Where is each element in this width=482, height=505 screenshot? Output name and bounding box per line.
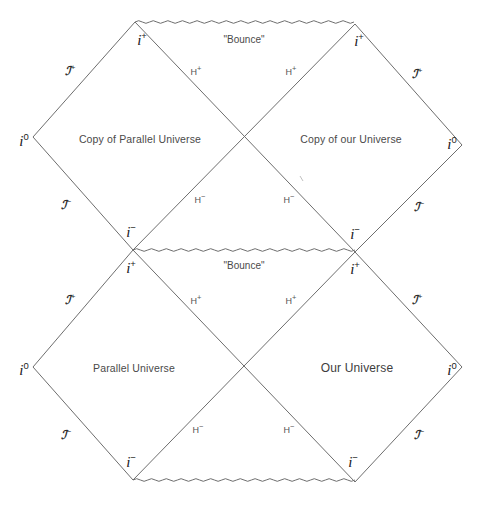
- scri-sign: −: [420, 199, 425, 208]
- corner-sign: −: [130, 452, 136, 463]
- corner-label-i-zero-upper-right: i0: [447, 136, 456, 153]
- corner-label-i-plus-mid-right: i+: [350, 261, 360, 278]
- wavy-line-bottom-singularity: [133, 479, 355, 482]
- scri-sign: +: [418, 292, 423, 301]
- region-label-copy-our-universe: Copy of our Universe: [300, 133, 402, 145]
- wavy-line-top-singularity: [135, 21, 354, 24]
- bounce-label-top: "Bounce": [223, 34, 264, 45]
- scri-sign: −: [67, 427, 72, 436]
- scri-label-plus-upper-left: ℐ+: [65, 64, 76, 79]
- scri-label-minus-upper-left: ℐ−: [61, 198, 72, 213]
- horizon-sign: −: [290, 192, 294, 201]
- horizon-sign: −: [290, 422, 294, 431]
- corner-sign: 0: [23, 131, 28, 142]
- horizon-sign: +: [292, 293, 296, 302]
- horizon-sign: −: [201, 192, 205, 201]
- horizon-sign: +: [292, 64, 296, 73]
- edge-scri-minus-lower-left: [33, 367, 133, 480]
- corner-label-i-zero-lower-left: i0: [19, 362, 28, 379]
- region-label-parallel-universe: Parallel Universe: [93, 362, 175, 374]
- scri-label-plus-upper-right: ℐ+: [412, 67, 423, 82]
- penrose-diagram: .edge { stroke: #6e6e6e; stroke-width: 1…: [0, 0, 482, 505]
- lower-left-diamond: [33, 250, 355, 482]
- region-label-copy-parallel-universe: Copy of Parallel Universe: [79, 133, 201, 145]
- bounce-label-middle: "Bounce": [223, 260, 264, 271]
- corner-label-i-plus-top-left: i+: [137, 32, 147, 49]
- corner-sign: −: [130, 222, 136, 233]
- corner-label-i-plus-top-right: i+: [354, 33, 364, 50]
- horizon-label-past-upper-right: H−: [284, 195, 295, 205]
- edge-scri-minus-upper-left: [33, 137, 133, 250]
- corner-label-i-zero-lower-right: i0: [447, 362, 456, 379]
- corner-label-i-plus-mid-left: i+: [126, 260, 136, 277]
- horizon-sign: +: [197, 64, 201, 73]
- corner-sign: −: [354, 224, 360, 235]
- corner-sign: 0: [23, 360, 28, 371]
- corner-sign: −: [352, 452, 358, 463]
- horizon-sign: +: [197, 293, 201, 302]
- corner-label-i-minus-mid-right: i−: [350, 226, 360, 243]
- scri-sign: −: [67, 197, 72, 206]
- scri-sign: +: [71, 63, 76, 72]
- horizon-label-past-lower-left: H−: [193, 425, 204, 435]
- corner-label-i-minus-bottom-left: i−: [126, 454, 136, 471]
- horizon-label-future-lower-left: H+: [191, 296, 202, 306]
- horizon-label-future-upper-right: H+: [286, 67, 297, 77]
- wavy-line-middle-singularity: [133, 249, 355, 252]
- region-label-our-universe: Our Universe: [321, 361, 394, 375]
- horizon-label-future-lower-right: H+: [286, 296, 297, 306]
- corner-sign: +: [358, 31, 364, 42]
- edge-scri-plus-upper-left: [33, 22, 135, 137]
- corner-sign: +: [354, 259, 360, 270]
- scri-sign: +: [71, 292, 76, 301]
- scri-sign: +: [418, 66, 423, 75]
- scri-label-minus-lower-left: ℐ−: [61, 428, 72, 443]
- horizon-label-past-lower-right: H−: [284, 425, 295, 435]
- scri-label-plus-lower-left: ℐ+: [65, 293, 76, 308]
- edge-scri-plus-lower-right: [355, 252, 462, 367]
- scri-label-minus-lower-right: ℐ−: [414, 428, 425, 443]
- corner-label-i-minus-bottom-right: i−: [348, 454, 358, 471]
- edge-scri-minus-lower-right: [355, 367, 462, 482]
- edge-scri-plus-upper-right: [355, 24, 462, 145]
- horizon-label-future-upper-left: H+: [191, 67, 202, 77]
- stray-tick-mark: [300, 176, 303, 181]
- corner-sign: +: [130, 258, 136, 269]
- edge-scri-minus-upper-right: [355, 145, 462, 252]
- corner-sign: 0: [451, 134, 456, 145]
- corner-label-i-zero-upper-left: i0: [19, 133, 28, 150]
- scri-label-minus-upper-right: ℐ−: [414, 200, 425, 215]
- scri-label-plus-lower-right: ℐ+: [412, 293, 423, 308]
- corner-sign: 0: [451, 360, 456, 371]
- edge-scri-plus-lower-left: [33, 250, 133, 367]
- horizon-sign: −: [199, 422, 203, 431]
- scri-sign: −: [420, 427, 425, 436]
- corner-sign: +: [141, 30, 147, 41]
- horizon-label-past-upper-left: H−: [195, 195, 206, 205]
- corner-label-i-minus-mid-left: i−: [126, 224, 136, 241]
